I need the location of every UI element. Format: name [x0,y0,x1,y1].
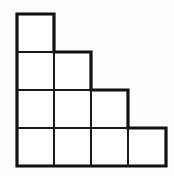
staircase-figure-svg [0,0,174,176]
cell-r4-c1 [17,128,54,166]
cell-r1-c1 [17,14,54,52]
cell-r2-c2 [54,52,91,90]
cell-r3-c2 [54,90,91,128]
cell-r4-c3 [91,128,128,166]
cell-r4-c4 [128,128,166,166]
cell-r2-c1 [17,52,54,90]
cell-r3-c3 [91,90,128,128]
cell-r4-c2 [54,128,91,166]
cell-r3-c1 [17,90,54,128]
figure-canvas [0,0,174,176]
